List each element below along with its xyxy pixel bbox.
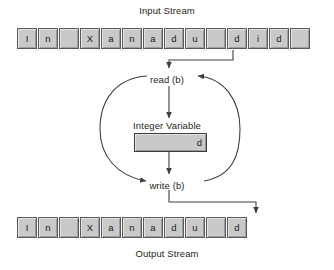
input-stream-row: InXanadudid xyxy=(17,28,310,49)
output-stream-cell: X xyxy=(80,217,100,238)
write-to-output-connector xyxy=(169,190,256,213)
integer-variable-caption: Integer Variable xyxy=(0,120,334,131)
input-stream-cell: a xyxy=(143,28,163,49)
input-stream-cell: I xyxy=(17,28,37,49)
integer-variable-value: d xyxy=(197,137,202,148)
input-stream-cell xyxy=(59,28,79,49)
output-stream-row: InXanadud xyxy=(17,217,247,238)
diagram-canvas: Input Stream InXanadudid xyxy=(0,0,334,270)
input-stream-cell: d xyxy=(227,28,247,49)
input-stream-cell: a xyxy=(101,28,121,49)
output-stream-cell: n xyxy=(122,217,142,238)
output-stream-cell xyxy=(59,217,79,238)
integer-variable-box: d xyxy=(134,133,207,152)
input-stream-cell: d xyxy=(269,28,289,49)
input-stream-cell xyxy=(206,28,226,49)
output-stream-cell: u xyxy=(185,217,205,238)
output-stream-title: Output Stream xyxy=(0,248,334,259)
output-stream-cell: n xyxy=(38,217,58,238)
input-stream-title: Input Stream xyxy=(0,5,334,16)
output-stream-cell xyxy=(206,217,226,238)
input-stream-cell: i xyxy=(248,28,268,49)
output-stream-cell: d xyxy=(164,217,184,238)
output-stream-cell: d xyxy=(227,217,247,238)
input-stream-cell xyxy=(290,28,310,49)
input-stream-cell: d xyxy=(164,28,184,49)
write-operation-label: write (b) xyxy=(0,180,334,191)
output-stream-cell: a xyxy=(101,217,121,238)
input-to-read-connector xyxy=(169,50,233,68)
output-stream-cell: a xyxy=(143,217,163,238)
input-stream-cell: n xyxy=(38,28,58,49)
read-operation-label: read (b) xyxy=(0,74,334,85)
input-stream-cell: u xyxy=(185,28,205,49)
input-stream-cell: X xyxy=(80,28,100,49)
input-stream-cell: n xyxy=(122,28,142,49)
output-stream-cell: I xyxy=(17,217,37,238)
